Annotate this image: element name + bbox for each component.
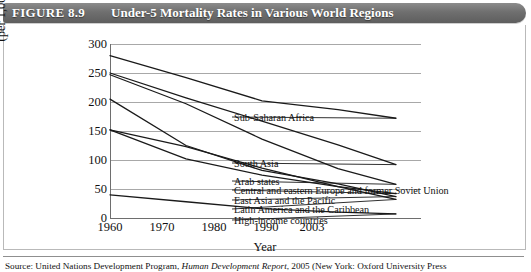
source-prefix: Source: United Nations Development Progr… bbox=[5, 261, 182, 271]
y-tick-300: 300 bbox=[67, 38, 107, 51]
series-label-south-asia: South Asia bbox=[234, 159, 278, 169]
x-tick-1980: 1980 bbox=[192, 221, 236, 234]
source-suffix: , 2005 (New York: Oxford University Pres… bbox=[287, 261, 447, 271]
figure-header: FIGURE 8.9 Under-5 Mortality Rates in Va… bbox=[3, 3, 526, 23]
gridline-150 bbox=[111, 131, 421, 132]
source-divider bbox=[3, 256, 524, 257]
x-axis-title: Year bbox=[110, 240, 420, 255]
source-title: Human Development Report bbox=[182, 261, 287, 271]
y-tick-250: 250 bbox=[67, 67, 107, 80]
x-tick-1970: 1970 bbox=[140, 221, 184, 234]
figure-number: FIGURE 8.9 bbox=[3, 5, 85, 21]
source-note: Source: United Nations Development Progr… bbox=[5, 261, 529, 272]
series-label-high-income-countries: High-income countries bbox=[234, 216, 328, 226]
x-tick-1960: 1960 bbox=[88, 221, 132, 234]
y-axis-title: Under-5 mortality rate (per 1,000 live b… bbox=[0, 0, 8, 62]
y-tick-100: 100 bbox=[67, 154, 107, 167]
y-axis-title-line2: (per 1,000 live births) bbox=[0, 0, 8, 62]
figure-title: Under-5 Mortality Rates in Various World… bbox=[85, 5, 393, 21]
figure-container: FIGURE 8.9 Under-5 Mortality Rates in Va… bbox=[0, 0, 531, 272]
gridline-200 bbox=[111, 102, 421, 103]
gridline-250 bbox=[111, 73, 421, 74]
y-tick-50: 50 bbox=[67, 183, 107, 196]
y-tick-150: 150 bbox=[67, 125, 107, 138]
y-tick-200: 200 bbox=[67, 96, 107, 109]
series-label-latin-america-caribbean: Latin America and the Caribbean bbox=[234, 205, 369, 215]
series-label-sub-saharan-africa: Sub-Saharan Africa bbox=[234, 113, 314, 123]
gridline-300 bbox=[111, 44, 421, 45]
